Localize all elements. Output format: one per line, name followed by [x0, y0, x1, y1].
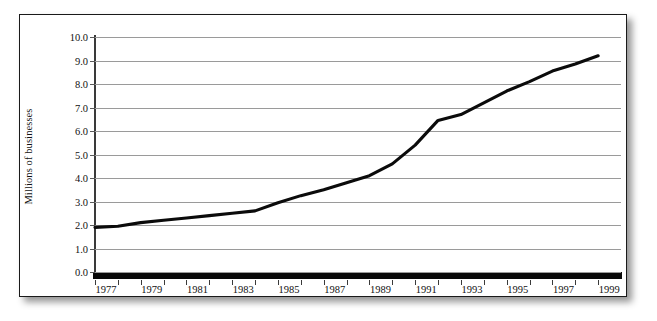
x-tick-label: 1977 — [96, 284, 117, 295]
x-tick-mark — [484, 280, 485, 285]
x-tick-label: 1985 — [278, 284, 299, 295]
x-tick-label: 1979 — [141, 284, 162, 295]
x-tick-mark — [575, 280, 576, 285]
x-tick-mark — [118, 280, 119, 285]
plot-area: 10.09.08.07.06.05.04.03.02.01.00.0 19771… — [95, 37, 621, 272]
x-tick-mark — [347, 280, 348, 285]
x-tick-label: 1995 — [507, 284, 528, 295]
x-tick-label: 1987 — [324, 284, 345, 295]
y-tick-label: 8.0 — [75, 79, 88, 90]
x-tick-mark — [530, 280, 531, 285]
y-tick-label: 10.0 — [70, 32, 88, 43]
y-axis-title: Millions of businesses — [17, 15, 39, 298]
x-tick-label: 1981 — [187, 284, 208, 295]
x-tick-label: 1991 — [416, 284, 437, 295]
y-tick-label: 2.0 — [75, 220, 88, 231]
y-tick-label: 3.0 — [75, 196, 88, 207]
y-tick-mark — [90, 272, 95, 273]
x-tick-label: 1983 — [233, 284, 254, 295]
y-tick-label: 6.0 — [75, 126, 88, 137]
x-tick-mark — [301, 280, 302, 285]
x-tick-mark — [209, 280, 210, 285]
x-tick-label: 1993 — [461, 284, 482, 295]
y-tick-label: 9.0 — [75, 55, 88, 66]
gridline — [95, 272, 621, 273]
chart-page: Millions of businesses 10.09.08.07.06.05… — [0, 0, 657, 321]
y-tick-label: 7.0 — [75, 102, 88, 113]
y-tick-label: 1.0 — [75, 243, 88, 254]
y-tick-label: 5.0 — [75, 149, 88, 160]
x-axis-bar — [93, 272, 622, 279]
series-svg — [95, 37, 621, 272]
x-tick-label: 1997 — [553, 284, 574, 295]
figure-frame: Millions of businesses 10.09.08.07.06.05… — [19, 14, 627, 297]
x-tick-mark — [255, 280, 256, 285]
x-tick-label: 1989 — [370, 284, 391, 295]
y-tick-label: 4.0 — [75, 173, 88, 184]
x-tick-mark — [164, 280, 165, 285]
x-tick-mark — [392, 280, 393, 285]
y-tick-label: 0.0 — [75, 267, 88, 278]
series-line — [95, 56, 598, 228]
x-tick-label: 1999 — [599, 284, 620, 295]
x-tick-mark — [438, 280, 439, 285]
